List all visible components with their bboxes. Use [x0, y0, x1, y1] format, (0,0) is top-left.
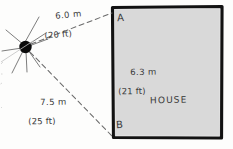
dashed-line-to-corner-a [31, 13, 112, 44]
diagram-canvas [0, 0, 233, 149]
tree-point-marker [2, 17, 48, 73]
hand-drawn-diagram: 6.0 m (20 ft) 7.5 m (25 ft) 6.3 m (21 ft… [0, 0, 233, 149]
house-rectangle [113, 7, 223, 139]
edge-cutoff-marks [1, 62, 4, 108]
dashed-line-to-corner-b [30, 52, 112, 136]
